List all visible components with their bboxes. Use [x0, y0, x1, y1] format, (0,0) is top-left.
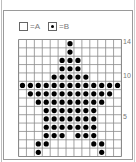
- stitch-dot-b: [67, 83, 72, 88]
- legend-label-a: =A: [30, 22, 40, 31]
- stitch-dot-b: [59, 66, 64, 71]
- stitch-dot-b: [59, 58, 64, 63]
- stitch-dot-b: [44, 116, 49, 121]
- stitch-dot-b: [59, 133, 64, 138]
- stitch-dot-b: [67, 58, 72, 63]
- stitch-dot-b: [52, 83, 57, 88]
- stitch-dot-b: [75, 133, 80, 138]
- stitch-dot-b: [52, 75, 57, 80]
- row-label-10: 10: [123, 72, 131, 79]
- legend-empty-square-icon: [19, 22, 28, 31]
- stitch-dot-b: [91, 125, 96, 130]
- stitch-dot-b: [44, 133, 49, 138]
- stitch-dot-b: [75, 58, 80, 63]
- stitch-dot-b: [67, 91, 72, 96]
- stitch-dot-b: [75, 66, 80, 71]
- stitch-dot-b: [44, 91, 49, 96]
- stitch-dot-b: [107, 91, 112, 96]
- stitch-dot-b: [83, 133, 88, 138]
- stitch-dot-b: [75, 83, 80, 88]
- stitch-dot-b: [44, 83, 49, 88]
- stitch-dot-b: [83, 108, 88, 113]
- stitch-dot-b: [75, 75, 80, 80]
- stitch-dot-b: [59, 91, 64, 96]
- stitch-dot-b: [36, 150, 41, 155]
- stitch-dot-b: [28, 91, 33, 96]
- legend-dot-square-icon: [48, 22, 57, 31]
- stitch-dot-b: [52, 133, 57, 138]
- page-edge-right: [134, 0, 135, 162]
- stitch-dot-b: [91, 133, 96, 138]
- stitch-dot-b: [59, 125, 64, 130]
- stitch-dot-b: [52, 108, 57, 113]
- legend: =A =B: [19, 20, 77, 32]
- stitch-dot-b: [91, 116, 96, 121]
- legend-label-b: =B: [59, 22, 69, 31]
- stitch-dot-b: [83, 83, 88, 88]
- stitch-dot-b: [91, 141, 96, 146]
- stitch-dot-b: [67, 108, 72, 113]
- stitch-dot-b: [67, 125, 72, 130]
- stitch-dot-b: [99, 83, 104, 88]
- stitch-dot-b: [36, 141, 41, 146]
- stitch-dot-b: [83, 116, 88, 121]
- stitch-dot-b: [99, 100, 104, 105]
- stitch-dot-b: [59, 83, 64, 88]
- stitch-dot-b: [91, 108, 96, 113]
- stitch-dot-b: [52, 91, 57, 96]
- stitch-dot-b: [36, 91, 41, 96]
- stitch-dot-b: [52, 116, 57, 121]
- stitch-dot-b: [67, 100, 72, 105]
- stitch-dot-b: [44, 125, 49, 130]
- stitch-dot-b: [67, 41, 72, 46]
- stitch-dot-b: [59, 116, 64, 121]
- row-label-14: 14: [123, 38, 131, 45]
- stitch-dot-b: [83, 75, 88, 80]
- stitch-dot-b: [91, 100, 96, 105]
- stitch-dot-b: [44, 100, 49, 105]
- stitch-dot-b: [91, 83, 96, 88]
- stitch-dot-b: [67, 49, 72, 54]
- stitch-dot-b: [67, 116, 72, 121]
- page-edge-left: [1, 0, 2, 162]
- stitch-dot-b: [107, 83, 112, 88]
- stitch-dot-b: [52, 100, 57, 105]
- stitch-dot-b: [83, 100, 88, 105]
- stitch-dot-b: [28, 83, 33, 88]
- stitch-dot-b: [91, 91, 96, 96]
- stitch-dot-b: [59, 100, 64, 105]
- stitch-dot-b: [75, 100, 80, 105]
- stitch-dot-b: [99, 91, 104, 96]
- stitch-dot-b: [99, 150, 104, 155]
- stitch-dot-b: [67, 75, 72, 80]
- stitch-chart-grid: [18, 39, 122, 157]
- stitch-dot-b: [83, 91, 88, 96]
- stitch-dot-b: [99, 141, 104, 146]
- stitch-dot-b: [75, 91, 80, 96]
- stitch-dot-b: [83, 125, 88, 130]
- stitch-dot-b: [44, 108, 49, 113]
- stitch-dot-b: [75, 125, 80, 130]
- stitch-dot-b: [20, 83, 25, 88]
- stitch-dot-b: [59, 75, 64, 80]
- stitch-dot-b: [75, 116, 80, 121]
- stitch-dot-b: [75, 108, 80, 113]
- stitch-dot-b: [36, 100, 41, 105]
- stitch-dot-b: [36, 83, 41, 88]
- row-label-5: 5: [123, 113, 127, 120]
- stitch-dot-b: [59, 108, 64, 113]
- stitch-dot-b: [115, 83, 120, 88]
- stitch-dot-b: [52, 125, 57, 130]
- stitch-dot-b: [44, 141, 49, 146]
- stitch-dot-b: [67, 66, 72, 71]
